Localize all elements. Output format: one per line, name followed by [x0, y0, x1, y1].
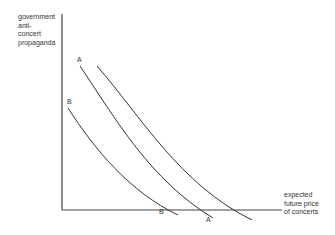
curve-b-top-label: B: [67, 98, 72, 105]
y-label-line: propaganda: [18, 39, 55, 48]
y-axis-label: government anti- concert propaganda: [18, 13, 55, 47]
curve-a-top-label: A: [77, 56, 82, 63]
curve-a: [80, 66, 213, 218]
x-axis-label: expected future price of concerts: [284, 191, 319, 217]
curve-b: [68, 108, 178, 215]
y-label-line: government: [18, 13, 55, 22]
curve-a-bottom-label: A: [206, 216, 211, 223]
y-label-line: anti-: [18, 22, 55, 31]
x-label-line: of concerts: [284, 208, 319, 217]
y-label-line: concert: [18, 30, 55, 39]
curve-b-bottom-label: B: [159, 208, 164, 215]
x-label-line: future price: [284, 200, 319, 209]
curve-outer: [97, 66, 252, 220]
x-label-line: expected: [284, 191, 319, 200]
